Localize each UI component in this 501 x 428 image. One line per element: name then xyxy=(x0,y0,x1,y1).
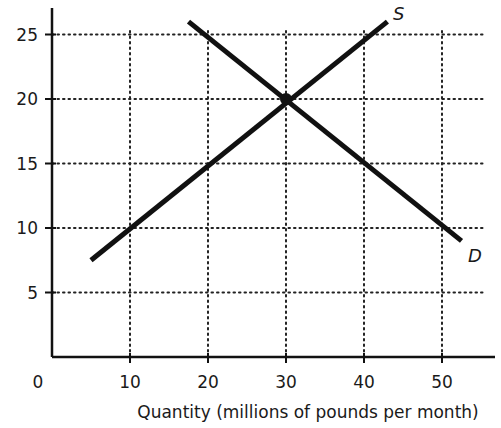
y-tick-label: 20 xyxy=(16,89,38,109)
axis-ticks xyxy=(45,35,442,364)
x-tick-label: 40 xyxy=(353,372,375,392)
x-tick-label: 10 xyxy=(119,372,141,392)
demand-label: D xyxy=(468,245,482,266)
y-tick-label: 10 xyxy=(16,218,38,238)
grid-lines xyxy=(52,28,483,357)
x-axis-title: Quantity (millions of pounds per month) xyxy=(137,402,478,422)
y-tick-label: 15 xyxy=(16,154,38,174)
curves xyxy=(91,22,462,261)
y-tick-label: 25 xyxy=(16,25,38,45)
axes xyxy=(52,8,495,357)
x-tick-label: 50 xyxy=(431,372,453,392)
y-tick-label: 5 xyxy=(27,283,38,303)
origin-label: 0 xyxy=(33,372,44,392)
demand-curve xyxy=(189,22,462,241)
x-tick-label: 30 xyxy=(275,372,297,392)
supply-curve xyxy=(91,22,387,261)
labels: 0 Quantity (millions of pounds per month… xyxy=(16,3,482,422)
supply-demand-chart: 0 Quantity (millions of pounds per month… xyxy=(0,0,501,428)
x-tick-label: 20 xyxy=(197,372,219,392)
supply-label: S xyxy=(393,3,404,24)
equilibrium-point xyxy=(280,93,292,105)
